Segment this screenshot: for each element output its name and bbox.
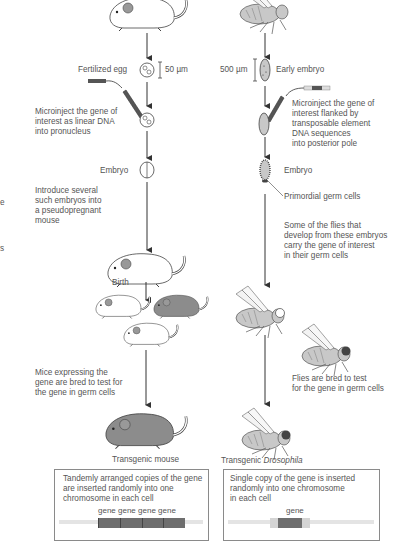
text-line: transposable element	[292, 119, 374, 129]
transgenic-drosophila-label: Transgenic Drosophila	[221, 456, 303, 466]
adult-fly-dark-eye-illustration	[302, 324, 351, 376]
text-line: randomly into one chromosome	[230, 484, 355, 494]
transposon-dna-icon	[286, 86, 330, 96]
text-line: Single copy of the gene is inserted	[230, 474, 355, 484]
mouse-top-illustration	[110, 0, 187, 31]
fly-embryo-icon	[260, 160, 270, 183]
flies-bred-text: Flies are bred to test for the gene in g…	[292, 374, 384, 394]
left-edge-fragment-1: e	[0, 198, 5, 208]
dna-fragment-icon	[88, 79, 122, 88]
transposon-flank-right	[302, 518, 310, 528]
fly-micropipette-icon	[267, 96, 284, 122]
birth-label: Birth	[112, 278, 129, 288]
text-line: Introduce several	[35, 186, 101, 196]
mouse-integration-box: Tandemly arranged copies of the gene are…	[54, 469, 209, 541]
text-line: interest flanked by	[292, 109, 374, 119]
text-line: gene are bred to test for	[35, 378, 122, 388]
injected-fly-embryo-icon	[259, 113, 269, 135]
mouse-embryo-label: Embryo	[100, 166, 128, 176]
fertilized-egg-icon	[140, 63, 154, 77]
transgenic-fly-illustration	[242, 408, 291, 460]
early-embryo-icon	[260, 59, 270, 81]
text-line: are inserted randomly into one	[63, 484, 202, 494]
single-gene-block	[278, 518, 302, 528]
text-line: DNA sequences	[292, 129, 374, 139]
fly-box-text: Single copy of the gene is inserted rand…	[230, 474, 355, 504]
introduce-embryos-text: Introduce several such embryos into a ps…	[35, 186, 101, 226]
transgenic-mouse-illustration	[106, 414, 186, 449]
tandem-gene-labels: gene gene gene gene	[98, 506, 176, 515]
micropipette-icon	[123, 90, 143, 118]
text-line: in their germ cells	[284, 251, 387, 261]
text-line: into posterior pole	[292, 139, 374, 149]
early-embryo-label: Early embryo	[276, 65, 324, 75]
text-line: interest as linear DNA	[35, 117, 117, 127]
embryo-scale-bar	[253, 59, 257, 81]
left-edge-fragment-2: s	[0, 244, 4, 254]
mouse-box-text: Tandemly arranged copies of the gene are…	[63, 474, 202, 504]
mouse-microinject-text: Microinject the gene of interest as line…	[35, 107, 117, 137]
fly-microinject-text: Microinject the gene of interest flanked…	[292, 99, 374, 149]
fly-embryo-label: Embryo	[284, 166, 312, 176]
mice-bred-text: Mice expressing the gene are bred to tes…	[35, 368, 122, 398]
fly-integration-box: Single copy of the gene is inserted rand…	[223, 469, 380, 541]
text-line: for the gene in germ cells	[292, 384, 384, 394]
primordial-germ-cells-label: Primordial germ cells	[284, 192, 360, 202]
egg-scale-label: 50 µm	[165, 65, 188, 75]
offspring-mouse-dark	[154, 295, 208, 318]
transgenic-mouse-label: Transgenic mouse	[112, 455, 179, 465]
single-gene-label: gene	[286, 506, 304, 515]
offspring-mouse-white-2	[124, 323, 178, 346]
text-line: in each cell	[230, 494, 355, 504]
text-line: such embryos into	[35, 196, 101, 206]
text-line: chromosome in each cell	[63, 494, 202, 504]
text-line: develop from these embryos	[284, 231, 387, 241]
species-name: Drosophila	[263, 456, 302, 465]
text-line: Microinject the gene of	[35, 107, 117, 117]
text-line: Flies are bred to test	[292, 374, 384, 384]
offspring-mouse-white-1	[96, 295, 150, 318]
flies-develop-text: Some of the flies that develop from thes…	[284, 221, 387, 261]
label-prefix: Transgenic	[221, 456, 263, 465]
adult-fly-illustration	[236, 286, 285, 338]
text-line: carry the gene of interest	[284, 241, 387, 251]
mouse-embryo-icon	[140, 162, 154, 178]
text-line: Mice expressing the	[35, 368, 122, 378]
text-line: Some of the flies that	[284, 221, 387, 231]
transposon-flank-left	[270, 518, 278, 528]
embryo-scale-label: 500 µm	[220, 65, 247, 75]
tandem-gene-blocks	[98, 518, 185, 528]
fertilized-egg-label: Fertilized egg	[78, 65, 127, 75]
egg-scale-bar	[158, 62, 162, 78]
injected-egg-icon	[140, 113, 154, 127]
text-line: Microinject the gene of	[292, 99, 374, 109]
fly-top-illustration	[240, 0, 288, 34]
text-line: a pseudopregnant	[35, 206, 101, 216]
text-line: the gene in germ cells	[35, 388, 122, 398]
text-line: mouse	[35, 216, 101, 226]
text-line: Tandemly arranged copies of the gene	[63, 474, 202, 484]
text-line: into pronucleus	[35, 127, 117, 137]
